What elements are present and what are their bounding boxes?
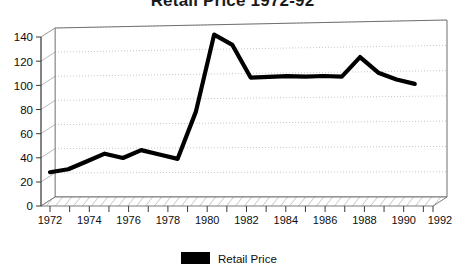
y-tick-label: 120 xyxy=(14,56,33,68)
plot-left-wall xyxy=(41,28,55,206)
y-tick-label: 140 xyxy=(14,31,33,43)
x-tick-label: 1976 xyxy=(116,214,140,226)
chart-plot-area: 0 20 40 60 80 100 120 140 xyxy=(0,0,465,276)
x-tick-label: 1982 xyxy=(234,214,258,226)
x-tick-label: 1984 xyxy=(274,214,298,226)
x-axis-ticks xyxy=(50,206,433,212)
x-tick-label: 1992 xyxy=(428,214,452,226)
y-axis-ticks xyxy=(36,37,41,206)
x-axis-labels: 1972 1974 1976 1978 1980 1982 1984 1986 … xyxy=(38,214,452,226)
legend-swatch xyxy=(181,252,210,264)
x-tick-label: 1978 xyxy=(156,214,180,226)
plot-floor xyxy=(41,197,447,206)
y-axis-labels: 0 20 40 60 80 100 120 140 xyxy=(14,31,33,212)
legend-label: Retail Price xyxy=(218,253,277,265)
x-tick-label: 1974 xyxy=(77,214,101,226)
chart-container: Retail Price 1972-92 xyxy=(0,0,465,276)
x-tick-label: 1972 xyxy=(38,214,62,226)
x-tick-label: 1986 xyxy=(313,214,337,226)
y-tick-label: 20 xyxy=(20,176,33,188)
y-tick-label: 60 xyxy=(20,128,33,140)
y-tick-label: 0 xyxy=(27,200,33,212)
y-tick-label: 100 xyxy=(14,80,33,92)
x-tick-label: 1980 xyxy=(195,214,219,226)
y-tick-label: 80 xyxy=(20,104,33,116)
x-tick-label: 1990 xyxy=(391,214,415,226)
chart-legend: Retail Price xyxy=(181,252,277,265)
y-tick-label: 40 xyxy=(20,152,33,164)
x-tick-label: 1988 xyxy=(352,214,376,226)
